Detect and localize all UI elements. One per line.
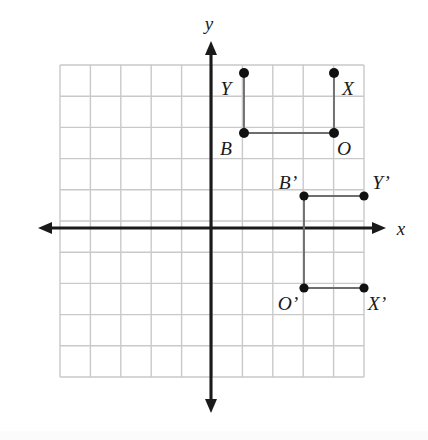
y-axis-label: y (203, 13, 214, 34)
point-dot-Oprime (299, 283, 308, 292)
point-label-Oprime: O’ (278, 293, 299, 314)
x-axis-arrow-right-icon (372, 222, 386, 234)
point-dot-O (329, 128, 339, 138)
point-dot-Yprime (359, 191, 368, 200)
point-label-X: X (341, 78, 355, 99)
y-axis-arrow-down-icon (205, 399, 217, 413)
point-dot-B (239, 128, 249, 138)
x-axis-arrow-left-icon (38, 222, 52, 234)
point-dot-Bprime (299, 191, 308, 200)
point-dot-X (329, 68, 339, 78)
point-label-Bprime: B’ (279, 172, 297, 193)
page-bottom-margin (0, 431, 428, 440)
point-dot-Xprime (359, 283, 368, 292)
point-label-Xprime: X’ (367, 293, 386, 314)
x-axis-label: x (396, 218, 406, 239)
point-label-O: O (337, 138, 351, 159)
coordinate-plane-svg: Y X B O B’ Y’ O’ X’ x y (0, 0, 428, 440)
point-label-B: B (220, 138, 232, 159)
y-axis-arrow-up-icon (205, 41, 217, 55)
point-dot-Y (239, 68, 249, 78)
figure-original-segments (244, 73, 334, 133)
point-label-Yprime: Y’ (372, 172, 389, 193)
coordinate-plane-figure: Y X B O B’ Y’ O’ X’ x y (0, 0, 428, 440)
